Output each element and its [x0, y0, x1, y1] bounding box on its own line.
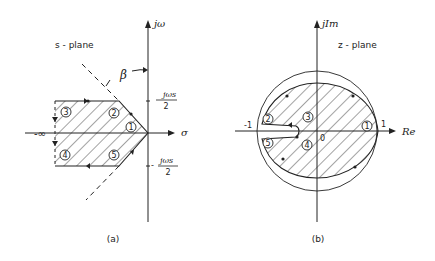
svg-text:3: 3 [63, 108, 68, 117]
svg-text:jωs: jωs [158, 156, 173, 165]
point-marker-1: 1 [126, 122, 136, 132]
s-to-z-mapping-diagram: 1 2 3 4 5 s - plane jω σ β -∞ jωs 2 - jω… [0, 0, 435, 261]
re-arrow-icon [389, 128, 396, 134]
sigma-arrow-icon [168, 130, 175, 136]
jw-axis-label: jω [152, 18, 165, 29]
svg-text:5: 5 [111, 151, 116, 160]
point-marker-3: 3 [303, 112, 313, 122]
origin-label: 0 [320, 134, 325, 143]
svg-text:jωs: jωs [161, 90, 176, 99]
z-plane-label: z - plane [338, 40, 377, 50]
jim-axis-label: jIm [320, 18, 339, 29]
svg-text:5: 5 [265, 139, 270, 148]
neg-one-label: -1 [244, 121, 252, 130]
svg-text:2: 2 [111, 109, 116, 118]
svg-text:4: 4 [304, 141, 309, 150]
point-marker-2: 2 [109, 108, 119, 118]
panel-a-s-plane: 1 2 3 4 5 s - plane jω σ β -∞ jωs 2 - jω… [25, 18, 189, 244]
svg-text:2: 2 [165, 168, 170, 177]
point-marker-3: 3 [61, 107, 71, 117]
svg-text:-: - [151, 161, 154, 170]
angle-ray-lower [86, 166, 119, 200]
panel-b-z-plane: 1 2 3 4 5 jIm z - plane Re -1 1 0 (b) [235, 18, 416, 244]
angle-ray-upper [82, 64, 119, 101]
lower-tick-label: - jωs 2 [151, 156, 178, 177]
point-marker-4: 4 [302, 140, 312, 150]
svg-text:1: 1 [128, 123, 133, 132]
svg-text:2: 2 [265, 115, 270, 124]
neg-infinity-label: -∞ [34, 128, 46, 139]
svg-text:2: 2 [163, 102, 168, 111]
s-plane-label: s - plane [55, 40, 94, 50]
beta-label: β [119, 68, 127, 82]
point-marker-5: 5 [263, 138, 273, 148]
re-axis-label: Re [401, 126, 416, 137]
jim-arrow-icon [314, 20, 320, 28]
svg-text:4: 4 [62, 151, 67, 160]
svg-text:3: 3 [305, 113, 310, 122]
sigma-axis-label: σ [181, 127, 189, 138]
jw-arrow-icon [145, 20, 151, 28]
caption-a: (a) [107, 234, 120, 244]
svg-text:1: 1 [364, 122, 369, 131]
point-marker-1: 1 [362, 121, 372, 131]
point-marker-2: 2 [263, 114, 273, 124]
point-marker-4: 4 [60, 150, 70, 160]
pos-one-label: 1 [381, 120, 386, 129]
upper-tick-label: jωs 2 [156, 90, 177, 111]
caption-b: (b) [312, 234, 325, 244]
point-marker-5: 5 [109, 150, 119, 160]
